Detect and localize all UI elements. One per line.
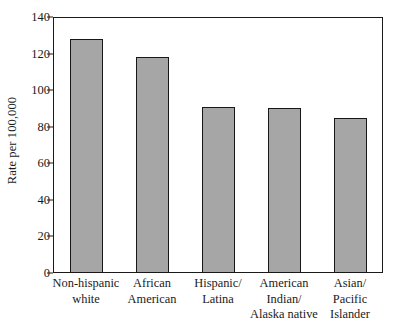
y-tick-mark: [47, 53, 53, 54]
y-axis-title-text: Rate per 100,000: [6, 96, 21, 183]
y-tick-mark: [47, 199, 53, 200]
y-tick-mark: [47, 17, 53, 18]
bar: [202, 107, 235, 273]
y-tick-mark: [47, 273, 53, 274]
bar: [334, 118, 367, 273]
y-tick-mark: [47, 90, 53, 91]
bar-chart: Rate per 100,000 020406080100120140 Non-…: [0, 0, 396, 332]
bars-layer: [53, 17, 383, 273]
x-axis-label-line: Islander: [310, 307, 389, 323]
x-axis-category-labels: Non-hispanicwhiteAfricanAmericanHispanic…: [53, 276, 383, 332]
x-axis-label: Asian/PacificIslander: [310, 276, 389, 323]
bar: [70, 39, 103, 273]
y-tick-mark: [47, 163, 53, 164]
y-tick-mark: [47, 126, 53, 127]
x-axis-label-line: Pacific: [310, 292, 389, 308]
y-tick-mark: [47, 236, 53, 237]
bar: [136, 57, 169, 273]
x-axis-label-line: Asian/: [310, 276, 389, 292]
bar: [268, 108, 301, 273]
